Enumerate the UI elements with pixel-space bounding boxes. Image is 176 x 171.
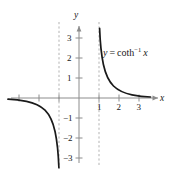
x-tick-label-2: 2 xyxy=(117,103,122,112)
curve-label-y: y xyxy=(103,47,107,58)
y-axis-label: y xyxy=(74,11,78,21)
figure-container: 1 2 3 3 2 1 −1 −2 −3 x y y=coth−1x xyxy=(0,0,176,171)
plot-svg xyxy=(0,0,176,171)
y-tick-label-1: 1 xyxy=(67,74,72,83)
x-axis-arrowhead xyxy=(153,96,159,101)
curve-label-argument: x xyxy=(143,47,147,58)
curve-right-branch xyxy=(100,28,151,97)
x-axis-label: x xyxy=(160,94,164,104)
y-axis-arrowhead xyxy=(77,26,82,32)
curve-left-branch xyxy=(8,99,59,168)
x-tick-label-3: 3 xyxy=(137,103,142,112)
curve-label-exponent: −1 xyxy=(134,46,141,53)
y-tick-label-minus-3: −3 xyxy=(63,154,73,163)
y-tick-label-3: 3 xyxy=(67,34,72,43)
curve-equation-label: y=coth−1x xyxy=(103,47,148,58)
curve-label-function: coth xyxy=(117,47,134,58)
y-tick-label-minus-2: −2 xyxy=(63,134,73,143)
y-tick-label-minus-1: −1 xyxy=(63,114,73,123)
x-tick-label-1: 1 xyxy=(97,103,102,112)
y-tick-label-2: 2 xyxy=(67,54,72,63)
curve-label-equals: = xyxy=(109,47,115,58)
